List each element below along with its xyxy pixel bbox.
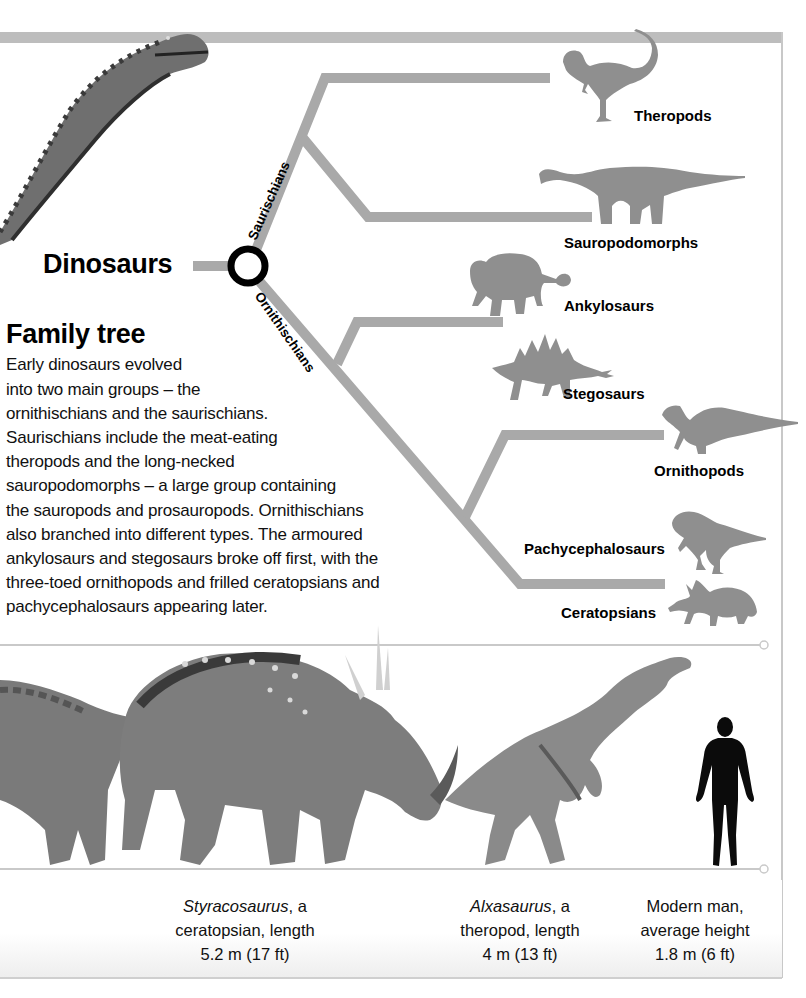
group-label-stegosaurs: Stegosaurs	[563, 385, 645, 402]
alxasaurus-illustration	[445, 657, 691, 865]
branch-thyreophorans	[337, 322, 503, 364]
body-line: pachycephalosaurs appearing later.	[6, 597, 268, 617]
caption-line-2: ceratopsian, length	[145, 918, 345, 942]
pachycephalosaur-silhouette	[672, 511, 766, 574]
scale-line-top-end	[760, 641, 768, 649]
caption-styracosaurus: Styracosaurus, a ceratopsian, length 5.2…	[145, 894, 345, 966]
body-line: the sauropods and prosauropods. Ornithis…	[6, 501, 363, 521]
brachiosaur-head-illustration	[0, 34, 209, 245]
caption-measurement: 5.2 m (17 ft)	[145, 942, 345, 966]
caption-line-2: average height	[595, 918, 795, 942]
group-label-sauropodomorphs: Sauropodomorphs	[564, 234, 698, 251]
body-line: three-toed ornithopods and frilled cerat…	[6, 573, 380, 593]
group-label-ankylosaurs: Ankylosaurs	[564, 297, 654, 314]
caption-alxasaurus: Alxasaurus, a theropod, length 4 m (13 f…	[420, 894, 620, 966]
branch-saurischians-theropods	[256, 78, 550, 250]
body-line: Early dinosaurs evolved	[6, 355, 182, 375]
caption-name-suffix: Modern man,	[646, 897, 743, 915]
caption-name-suffix: , a	[289, 897, 307, 915]
caption-name-suffix: , a	[552, 897, 570, 915]
illustration-layer	[0, 0, 806, 998]
section-title: Family tree	[6, 319, 145, 350]
caption-measurement: 4 m (13 ft)	[420, 942, 620, 966]
caption-modern-man: Modern man, average height 1.8 m (6 ft)	[595, 894, 795, 966]
caption-species-name: Styracosaurus	[183, 897, 288, 915]
ornithopod-silhouette	[662, 405, 798, 454]
body-line: ankylosaurs and stegosaurs broke off fir…	[6, 549, 378, 569]
body-line: Saurischians include the meat-eating	[6, 428, 278, 448]
group-label-ceratopsians: Ceratopsians	[561, 604, 656, 621]
body-line: sauropodomorphs – a large group containi…	[6, 476, 336, 496]
body-line: ornithischians and the saurischians.	[6, 404, 268, 424]
caption-species-name: Alxasaurus	[470, 897, 552, 915]
page: Dinosaurs Saurischians Ornithischians Th…	[0, 0, 806, 998]
scale-line-bottom-end	[760, 865, 768, 873]
styracosaurus-illustration	[120, 625, 458, 865]
group-label-pachycephalosaurs: Pachycephalosaurs	[524, 540, 665, 557]
caption-measurement: 1.8 m (6 ft)	[595, 942, 795, 966]
ceratopsian-silhouette	[668, 580, 757, 626]
group-label-ornithopods: Ornithopods	[654, 462, 744, 479]
ankylosaur-silhouette	[470, 253, 571, 316]
body-line: also branched into different types. The …	[6, 525, 362, 545]
caption-line-2: theropod, length	[420, 918, 620, 942]
branch-ornithopods	[465, 435, 664, 517]
group-label-theropods: Theropods	[634, 107, 712, 124]
human-silhouette	[696, 717, 754, 866]
body-line: into two main groups – the	[6, 380, 200, 400]
body-line: theropods and the long-necked	[6, 452, 235, 472]
tree-root-label: Dinosaurs	[43, 249, 172, 280]
root-node-ring	[231, 249, 265, 283]
